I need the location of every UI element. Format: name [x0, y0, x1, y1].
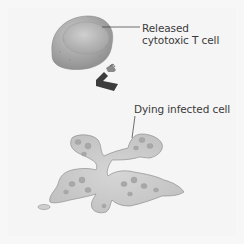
- t-cell-receptor: [96, 64, 118, 91]
- diagram-canvas: Released cytotoxic T cell Dying infected…: [0, 0, 244, 244]
- t-cell-label-line1: Released: [142, 22, 219, 34]
- cytotoxic-t-cell: [52, 16, 113, 70]
- dying-cell-body: [50, 134, 184, 213]
- dying-infected-cell: [38, 134, 184, 213]
- t-cell-label: Released cytotoxic T cell: [142, 22, 219, 46]
- dying-cell-leader-line: [132, 116, 135, 138]
- t-cell-label-line2: cytotoxic T cell: [142, 34, 219, 46]
- cell-fragment: [38, 205, 50, 210]
- receptor-dark-arm: [96, 72, 118, 91]
- dying-cell-label: Dying infected cell: [134, 103, 230, 115]
